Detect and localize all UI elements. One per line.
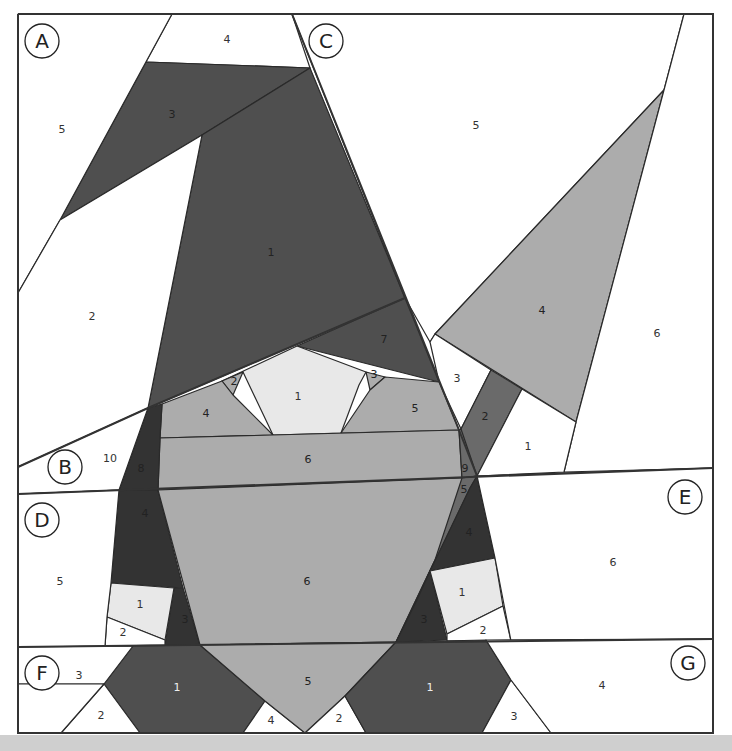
piece-number-label: 1 (459, 586, 466, 599)
piece-number-label: 3 (182, 613, 189, 626)
piece-number-label: 3 (511, 710, 518, 723)
piece-number-label: 3 (76, 669, 83, 682)
section-marker-a: A (25, 24, 59, 58)
section-letter: D (34, 508, 49, 532)
piece-number-label: 2 (231, 375, 238, 388)
piece-number-label: 2 (89, 310, 96, 323)
piece-number-label: 8 (138, 462, 145, 475)
section-letter: E (679, 485, 692, 509)
section-marker-g: G (671, 646, 705, 680)
piece-number-label: 3 (454, 372, 461, 385)
piece-number-label: 2 (482, 410, 489, 423)
section-marker-c: C (309, 24, 343, 58)
section-marker-f: F (25, 656, 59, 690)
piece-number-label: 6 (610, 556, 617, 569)
piece-number-label: 5 (461, 483, 468, 496)
piece-number-label: 6 (654, 327, 661, 340)
section-letter: C (319, 29, 333, 53)
piece-number-label: 2 (480, 624, 487, 637)
quilt-pattern-diagram: 4351254673211234568910431256543126132452… (0, 0, 732, 751)
piece-number-label: 5 (473, 119, 480, 132)
piece-number-label: 2 (120, 626, 127, 639)
section-letter: G (680, 651, 696, 675)
section-letter: B (58, 455, 72, 479)
piece-number-label: 5 (305, 675, 312, 688)
piece-number-label: 1 (525, 440, 532, 453)
bottom-shadow-bar (0, 735, 732, 751)
piece-number-label: 1 (174, 681, 181, 694)
piece-number-label: 4 (224, 33, 231, 46)
piece-number-label: 10 (103, 452, 117, 465)
piece-number-label: 4 (466, 526, 473, 539)
piece-number-label: 1 (268, 246, 275, 259)
section-marker-e: E (668, 480, 702, 514)
piece-number-label: 5 (59, 123, 66, 136)
piece-number-label: 2 (98, 709, 105, 722)
piece-number-label: 3 (169, 108, 176, 121)
section-letter: F (36, 661, 48, 685)
piece-number-label: 6 (305, 453, 312, 466)
section-letter: A (35, 29, 49, 53)
piece-number-label: 6 (304, 575, 311, 588)
piece-number-label: 9 (462, 462, 469, 475)
piece-number-label: 2 (336, 712, 343, 725)
section-marker-d: D (25, 503, 59, 537)
piece-number-label: 5 (57, 575, 64, 588)
piece-number-label: 4 (539, 304, 546, 317)
piece-number-label: 4 (268, 714, 275, 727)
piece-number-label: 3 (371, 368, 378, 381)
piece-number-label: 4 (203, 407, 210, 420)
section-marker-b: B (48, 450, 82, 484)
piece-number-label: 1 (295, 390, 302, 403)
piece-number-label: 4 (142, 507, 149, 520)
piece-number-label: 3 (421, 613, 428, 626)
piece-number-label: 4 (599, 679, 606, 692)
piece-number-label: 7 (381, 333, 388, 346)
piece-number-label: 1 (137, 598, 144, 611)
pattern-svg: 4351254673211234568910431256543126132452… (0, 0, 732, 751)
piece-number-label: 1 (427, 681, 434, 694)
piece-number-label: 5 (412, 402, 419, 415)
